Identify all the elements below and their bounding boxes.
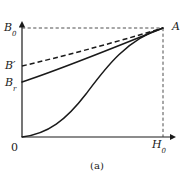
point-a-label: A [172, 21, 180, 32]
curve-b-prime-dashed [22, 28, 163, 66]
figure-container: B0 B′ Br A H0 0 (a) [0, 0, 194, 179]
x-axis-label-h0: H0 [152, 139, 166, 150]
origin-label: 0 [11, 142, 18, 153]
y-axis-label-br: Br [5, 77, 16, 88]
curve-br-solid [22, 28, 163, 82]
y-axis-label-b-prime: B′ [5, 60, 16, 71]
y-axis-label-b0: B0 [4, 22, 17, 33]
figure-caption: (a) [0, 160, 194, 171]
curve-virgin-sigmoid [22, 28, 163, 137]
